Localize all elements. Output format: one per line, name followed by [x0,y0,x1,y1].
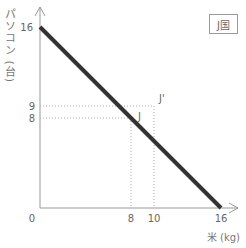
x-tick-8: 8 [128,213,134,224]
point-jprime-label: J' [158,93,165,104]
chart-canvas: 16 9 8 0 8 10 16 J J' 米 (kg) [0,0,246,248]
x-axis-label: 米 (kg) [207,231,240,243]
x-tick-10: 10 [148,213,161,224]
y-tick-8: 8 [29,113,35,124]
x-tick-16: 16 [215,213,228,224]
y-tick-9: 9 [29,101,35,112]
y-tick-16: 16 [20,22,33,33]
point-j-label: J [137,111,141,122]
origin-label: 0 [29,213,35,224]
